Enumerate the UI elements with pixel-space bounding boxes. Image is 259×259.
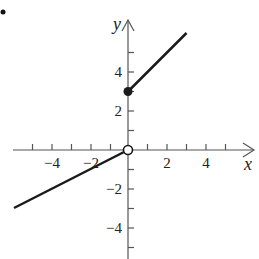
y-tick-label-2: 2 xyxy=(115,103,123,119)
y-axis: 4 2 −2 −4 y xyxy=(106,14,134,259)
piecewise-graph: −4 −2 2 4 x 4 2 −2 −4 y xyxy=(0,0,259,259)
bullet-dot xyxy=(1,10,6,15)
y-axis-label: y xyxy=(111,14,121,34)
y-tick-label-neg2: −2 xyxy=(106,181,122,197)
y-tick-label-4: 4 xyxy=(115,64,123,80)
x-tick-label-2: 2 xyxy=(163,155,171,171)
left-line-segment xyxy=(14,152,124,208)
x-tick-label-4: 4 xyxy=(202,155,210,171)
right-line-segment xyxy=(128,33,187,92)
open-circle-icon xyxy=(124,146,133,155)
x-tick-label-neg4: −4 xyxy=(44,155,60,171)
closed-dot-icon xyxy=(124,87,133,96)
x-axis-label: x xyxy=(243,154,252,174)
y-tick-label-neg4: −4 xyxy=(106,220,122,236)
